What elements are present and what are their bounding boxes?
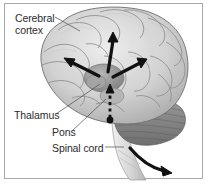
thalamus-shape — [84, 64, 124, 92]
brain-diagram-figure: Cerebralcortex Thalamus Pons Spinal cord — [0, 0, 208, 184]
label-thalamus: Thalamus — [14, 110, 59, 122]
label-cerebral-cortex-line2: cortex — [15, 24, 43, 36]
label-spinal-cord: Spinal cord — [52, 143, 103, 155]
label-cerebral-cortex: Cerebralcortex — [15, 13, 54, 36]
label-pons: Pons — [52, 127, 76, 139]
label-cerebral-cortex-line1: Cerebral — [15, 12, 54, 24]
